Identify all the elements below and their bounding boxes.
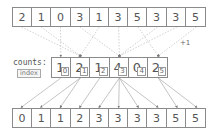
input-cell: 1: [32, 8, 51, 26]
output-cell: 5: [167, 109, 186, 127]
index-label: index: [17, 69, 41, 78]
output-array: 0 1 1 2 3 3 3 3 5 5: [12, 108, 206, 128]
count-cell: 43: [110, 58, 129, 77]
counts-array: 10 21 12 43 04 25: [51, 57, 168, 78]
count-index: 4: [137, 67, 145, 76]
output-cell: 3: [90, 109, 109, 127]
output-cell: 2: [71, 109, 90, 127]
count-index: 5: [158, 67, 166, 76]
count-index: 1: [80, 67, 88, 76]
count-index: 3: [118, 67, 126, 76]
input-cell: 0: [51, 8, 70, 26]
input-cell: 3: [147, 8, 166, 26]
count-index: 0: [61, 67, 69, 76]
output-cell: 0: [13, 109, 32, 127]
count-cell: 10: [52, 58, 71, 77]
input-cell: 5: [128, 8, 147, 26]
input-cell: 3: [167, 8, 186, 26]
input-cell: 3: [109, 8, 128, 26]
input-cell: 3: [71, 8, 90, 26]
input-array: 2 1 0 3 1 3 5 3 3 5: [12, 7, 206, 27]
count-cell: 12: [90, 58, 109, 77]
count-cell: 04: [129, 58, 148, 77]
count-cell: 25: [148, 58, 167, 77]
increment-label: +1: [180, 39, 190, 47]
counts-label: counts:: [13, 58, 47, 67]
output-cell: 3: [128, 109, 147, 127]
input-cell: 2: [13, 8, 32, 26]
output-cell: 3: [109, 109, 128, 127]
count-cell: 21: [71, 58, 90, 77]
output-cell: 5: [186, 109, 205, 127]
input-cell: 5: [186, 8, 205, 26]
output-cell: 1: [51, 109, 70, 127]
input-cell: 1: [90, 8, 109, 26]
output-cell: 3: [147, 109, 166, 127]
output-cell: 1: [32, 109, 51, 127]
count-index: 2: [99, 67, 107, 76]
